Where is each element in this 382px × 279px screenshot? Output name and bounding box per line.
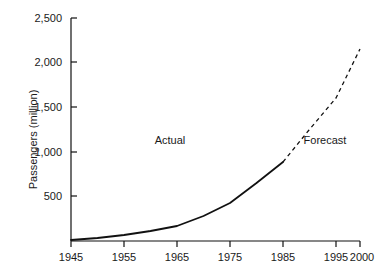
annotation-actual: Actual xyxy=(155,134,186,146)
x-tick-marks xyxy=(71,241,360,247)
annotation-forecast: Forecast xyxy=(304,134,347,146)
axes-group xyxy=(71,18,360,241)
y-tick-label-1500: 1,500 xyxy=(8,101,62,113)
y-tick-label-500: 500 xyxy=(8,190,62,202)
x-tick-label-1965: 1965 xyxy=(165,251,189,263)
passengers-forecast-chart: Passengers (million) 2,500 2,000 1,500 1… xyxy=(0,0,382,279)
y-tick-marks xyxy=(71,18,77,196)
x-tick-label-1955: 1955 xyxy=(112,251,136,263)
series-line-actual xyxy=(71,162,283,240)
y-tick-label-1000: 1,000 xyxy=(8,146,62,158)
y-tick-label-2500: 2,500 xyxy=(8,12,62,24)
x-tick-label-1945: 1945 xyxy=(59,251,83,263)
x-tick-label-1985: 1985 xyxy=(271,251,295,263)
x-tick-label-1975: 1975 xyxy=(218,251,242,263)
x-tick-label-2000: 2000 xyxy=(350,251,374,263)
y-axis-title: Passengers (million) xyxy=(22,0,44,279)
y-tick-label-2000: 2,000 xyxy=(8,56,62,68)
x-tick-label-1995: 1995 xyxy=(324,251,348,263)
